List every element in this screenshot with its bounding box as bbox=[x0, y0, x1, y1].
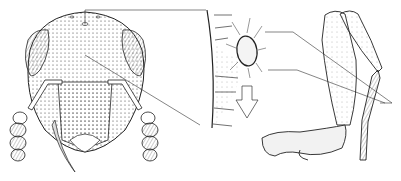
figure-canvas bbox=[0, 0, 401, 181]
cuticle-section bbox=[207, 10, 266, 128]
insect-leg bbox=[262, 11, 382, 160]
arrow-down-icon bbox=[236, 86, 258, 118]
insect-head bbox=[10, 12, 158, 172]
